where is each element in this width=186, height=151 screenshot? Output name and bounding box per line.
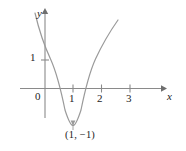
x-axis-name-label: x [167,91,172,102]
x-axis-tick-label-3: 3 [126,93,132,104]
y-axis-name-label: y [37,8,42,19]
x-axis-origin-label: 0 [35,91,41,102]
x-axis-tick-label-1: 1 [69,93,75,104]
vertex-coordinate-label: (1, −1) [65,130,95,141]
y-axis-arrow-icon [42,8,48,14]
parabola-figure: 0 1 2 3 1 x y (1, −1) [0,0,186,151]
x-axis-tick-label-2: 2 [97,93,103,104]
y-axis-tick-label-1: 1 [30,52,36,63]
parabola-curve [35,13,118,126]
